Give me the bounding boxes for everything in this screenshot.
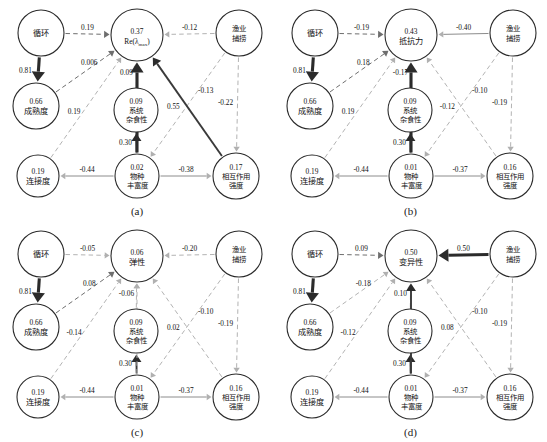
node-cycling: 循环: [18, 231, 64, 277]
node-text: 0.01: [131, 384, 144, 393]
arrow-head: [105, 252, 110, 258]
edge-fishing-to-response: -0.40: [438, 23, 488, 38]
edge-cycling-to-response: -0.05: [65, 244, 109, 259]
arrow-head: [116, 279, 121, 285]
node-text: 系统: [403, 106, 418, 115]
edge-richness-to-interaction: -0.37: [161, 386, 212, 400]
edge-label: -0.22: [218, 98, 234, 107]
arrow-head: [108, 272, 114, 278]
edge-label: -0.37: [452, 165, 468, 174]
edge-fishing-to-response: 0.50: [438, 244, 488, 262]
panel-d: 0.090.81-0.18-0.120.100.30-0.48-0.44-0.3…: [274, 221, 547, 442]
edge-label: 0.81: [293, 287, 306, 296]
node-text: 0.09: [130, 97, 143, 106]
edge-cycling-to-maturity: 0.81: [19, 57, 45, 81]
node-text: 0.66: [304, 97, 317, 106]
edge-label: -0.19: [218, 319, 234, 328]
arrow-head: [61, 173, 66, 179]
node-interaction: 0.17相互作用强度: [213, 153, 259, 199]
node-text: 强度: [503, 181, 518, 190]
edge-label: -0.14: [66, 328, 82, 337]
node-label: 弹性: [129, 257, 145, 267]
node-response: 0.37Re(λmax): [111, 9, 163, 61]
edge-label: 0.08: [441, 323, 454, 332]
edge-label: 0.30: [393, 138, 406, 147]
node-text: 成熟度: [24, 327, 48, 337]
node-text: 捕捞: [506, 255, 520, 264]
arrow-head: [130, 63, 143, 73]
edge-cycling-to-response: -0.19: [339, 23, 383, 38]
edge-fishing-to-richness: -0.10: [425, 53, 499, 157]
arrow-head: [390, 279, 395, 285]
node-text: 物种: [130, 172, 144, 181]
arrow-head: [134, 284, 140, 289]
arrow-head: [32, 292, 45, 302]
panel-caption: (b): [274, 205, 547, 217]
edge-connectance-to-response: -0.12: [325, 279, 395, 379]
node-value: 0.37: [131, 27, 144, 36]
node-connectance: 0.19连接度: [17, 155, 59, 197]
node-text: 循环: [307, 249, 323, 259]
node-text: 循环: [33, 28, 49, 38]
arrow-head: [390, 58, 395, 64]
node-fishing: 渔业捕捞: [216, 231, 262, 277]
node-connectance: 0.19连接度: [291, 376, 333, 418]
node-text: 成熟度: [298, 106, 322, 116]
node-response: 0.06弹性: [111, 230, 163, 282]
edge-label: 0.81: [19, 287, 32, 296]
edge-label: -0.40: [456, 23, 472, 32]
edge-label: 0.30: [119, 359, 132, 368]
panel-b: -0.190.810.180.19-0.170.300.53-0.44-0.37…: [274, 0, 547, 221]
node-text: 相互作用: [222, 172, 250, 181]
arrow-head: [207, 173, 212, 179]
node-richness: 0.01物种丰富度: [389, 154, 433, 198]
edge-label: 0.19: [68, 107, 81, 116]
node-text: 0.66: [30, 97, 43, 106]
edge-fishing-to-richness: -0.13: [151, 53, 225, 157]
edge-label: -0.20: [182, 244, 198, 253]
node-value: 0.06: [131, 248, 144, 257]
edge-label: -0.44: [79, 386, 95, 395]
node-text: 系统: [129, 327, 144, 336]
edge-maturity-to-response: 0.18: [330, 51, 388, 92]
edge-richness-to-connectance: -0.44: [335, 386, 388, 400]
node-text: 成熟度: [24, 106, 48, 116]
node-text: 0.16: [504, 163, 517, 172]
arrow-head: [116, 58, 121, 64]
edge-label: -0.10: [472, 86, 488, 95]
node-omnivory: 0.09系统杂食性: [388, 88, 432, 132]
arrow-head: [481, 394, 486, 400]
node-omnivory: 0.09系统杂食性: [388, 309, 432, 353]
arrow-head: [108, 51, 114, 57]
arrow-head: [507, 147, 513, 152]
edge-label: 0.02: [167, 323, 180, 332]
node-text: 物种: [130, 393, 144, 402]
node-text: 丰富度: [401, 402, 423, 411]
node-text: 成熟度: [298, 327, 322, 337]
edge-richness-to-interaction: -0.37: [435, 165, 486, 179]
node-text: 连接度: [26, 176, 50, 186]
node-text: 捕捞: [232, 34, 246, 43]
edge-label: -0.12: [440, 102, 456, 111]
arrow-head: [404, 63, 417, 73]
edge-label: 0.10: [394, 289, 407, 298]
edge-richness-to-omnivory: 0.30: [119, 354, 141, 373]
node-text: 杂食性: [126, 336, 147, 345]
node-text: 循环: [33, 249, 49, 259]
arrow-head: [207, 394, 212, 400]
arrow-head: [378, 31, 383, 38]
arrow-head: [233, 368, 239, 373]
edge-label: -0.44: [79, 165, 95, 174]
edge-label: 0.08: [83, 279, 96, 288]
node-text: 渔业: [232, 24, 246, 33]
arrow-head: [151, 372, 156, 378]
arrow-head: [131, 354, 141, 362]
panel-a: 0.190.810.0060.190.090.300.35-0.44-0.38-…: [0, 0, 274, 221]
node-cycling: 循环: [18, 10, 64, 56]
edge-cycling-to-response: 0.19: [65, 23, 109, 38]
node-text: 循环: [307, 28, 323, 38]
edge-label: 0.81: [293, 66, 306, 75]
edge-maturity-to-response: -0.18: [330, 272, 388, 313]
node-text: 系统: [129, 106, 144, 115]
edge-fishing-to-response: -0.20: [164, 244, 214, 259]
